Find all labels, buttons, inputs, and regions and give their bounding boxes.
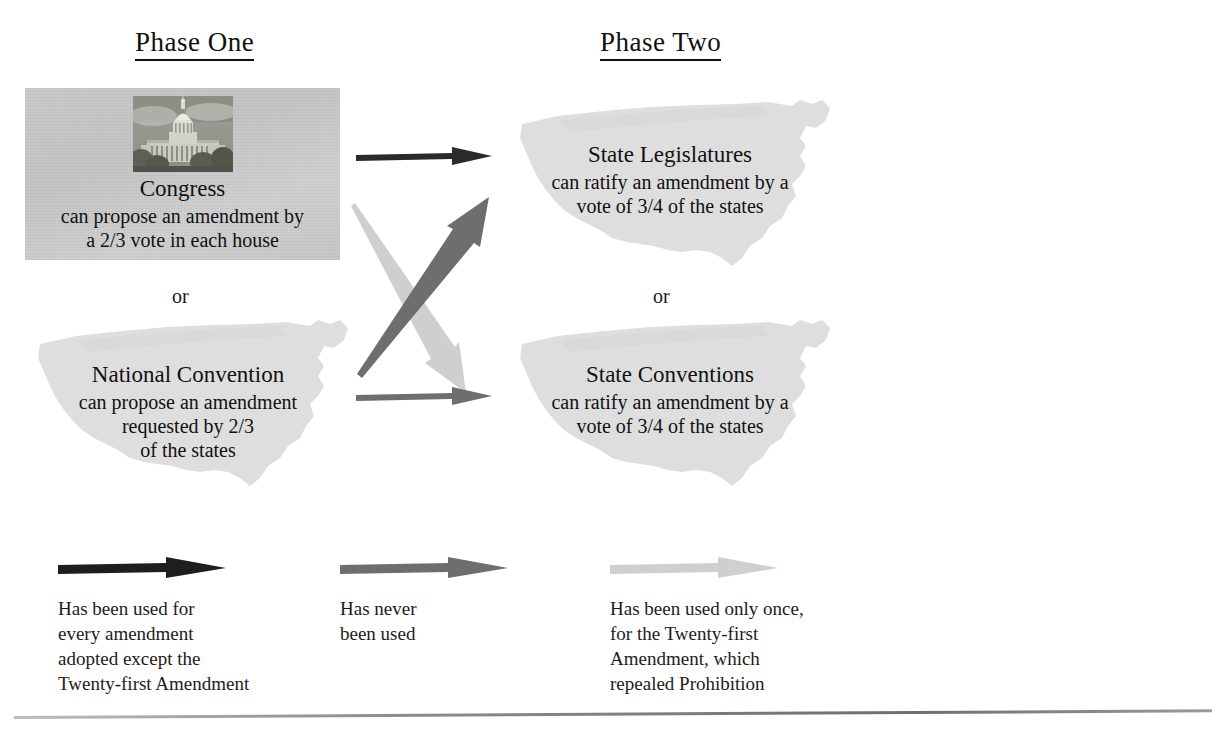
node-state-conventions-line-2: vote of 3/4 of the states bbox=[500, 414, 840, 438]
arrow-national-convention-to-state-legislatures bbox=[357, 197, 489, 378]
node-state-legislatures-text: State Legislatures can ratify an amendme… bbox=[500, 142, 840, 218]
legend-1-line-2: every amendment bbox=[58, 621, 328, 646]
node-national-convention-line-2: requested by 2/3 bbox=[18, 414, 358, 438]
legend-3-line-3: Amendment, which bbox=[610, 646, 880, 671]
legend-3-line-4: repealed Prohibition bbox=[610, 671, 880, 696]
node-congress-line-1: can propose an amendment by bbox=[25, 204, 340, 228]
legend-2-line-1: Has never bbox=[340, 596, 610, 621]
legend-item-light-gray-text: Has been used only once, for the Twenty-… bbox=[610, 596, 880, 696]
arrow-congress-to-state-conventions bbox=[351, 203, 466, 393]
page-bottom-rule bbox=[14, 709, 1212, 719]
arrow-national-convention-to-state-conventions bbox=[356, 387, 492, 405]
node-state-legislatures-description: can ratify an amendment by a vote of 3/4… bbox=[500, 170, 840, 218]
node-national-convention-text: National Convention can propose an amend… bbox=[18, 362, 358, 462]
amendment-process-diagram: Phase One Phase Two bbox=[0, 0, 1227, 743]
legend-3-line-1: Has been used only once, bbox=[610, 596, 880, 621]
legend-item-light-gray-arrow: Has been used only once, for the Twenty-… bbox=[610, 556, 880, 696]
node-state-legislatures-title: State Legislatures bbox=[500, 142, 840, 168]
node-congress: Congress can propose an amendment by a 2… bbox=[25, 88, 340, 260]
node-national-convention-description: can propose an amendment requested by 2/… bbox=[18, 390, 358, 462]
legend-item-dark-gray-arrow: Has never been used bbox=[340, 556, 610, 646]
legend-arrow-light-gray-icon bbox=[610, 556, 778, 582]
legend-3-line-2: for the Twenty-first bbox=[610, 621, 880, 646]
legend-1-line-4: Twenty-first Amendment bbox=[58, 671, 328, 696]
legend-arrow-black-icon bbox=[58, 556, 226, 582]
node-state-legislatures-line-1: can ratify an amendment by a bbox=[500, 170, 840, 194]
legend-arrow-dark-gray-icon bbox=[340, 556, 508, 582]
node-congress-line-2: a 2/3 vote in each house bbox=[25, 228, 340, 252]
phase-two-heading: Phase Two bbox=[600, 28, 721, 61]
node-national-convention-title: National Convention bbox=[18, 362, 358, 388]
legend-1-line-1: Has been used for bbox=[58, 596, 328, 621]
legend-item-dark-gray-text: Has never been used bbox=[340, 596, 610, 646]
node-national-convention: National Convention can propose an amend… bbox=[18, 300, 358, 500]
legend-item-black-arrow: Has been used for every amendment adopte… bbox=[58, 556, 328, 696]
node-state-conventions: State Conventions can ratify an amendmen… bbox=[500, 300, 840, 500]
node-state-conventions-text: State Conventions can ratify an amendmen… bbox=[500, 362, 840, 438]
arrow-congress-to-state-legislatures bbox=[356, 147, 492, 165]
node-state-conventions-description: can ratify an amendment by a vote of 3/4… bbox=[500, 390, 840, 438]
node-national-convention-line-1: can propose an amendment bbox=[18, 390, 358, 414]
node-state-legislatures-line-2: vote of 3/4 of the states bbox=[500, 194, 840, 218]
legend-item-black-text: Has been used for every amendment adopte… bbox=[58, 596, 328, 696]
legend-2-line-2: been used bbox=[340, 621, 610, 646]
node-state-conventions-title: State Conventions bbox=[500, 362, 840, 388]
phase-one-heading: Phase One bbox=[135, 28, 254, 61]
node-congress-title: Congress bbox=[25, 176, 340, 202]
node-congress-description: can propose an amendment by a 2/3 vote i… bbox=[25, 204, 340, 253]
node-state-conventions-line-1: can ratify an amendment by a bbox=[500, 390, 840, 414]
legend-1-line-3: adopted except the bbox=[58, 646, 328, 671]
node-state-legislatures: State Legislatures can ratify an amendme… bbox=[500, 80, 840, 280]
us-capitol-photo-icon bbox=[133, 96, 233, 172]
node-national-convention-line-3: of the states bbox=[18, 438, 358, 462]
